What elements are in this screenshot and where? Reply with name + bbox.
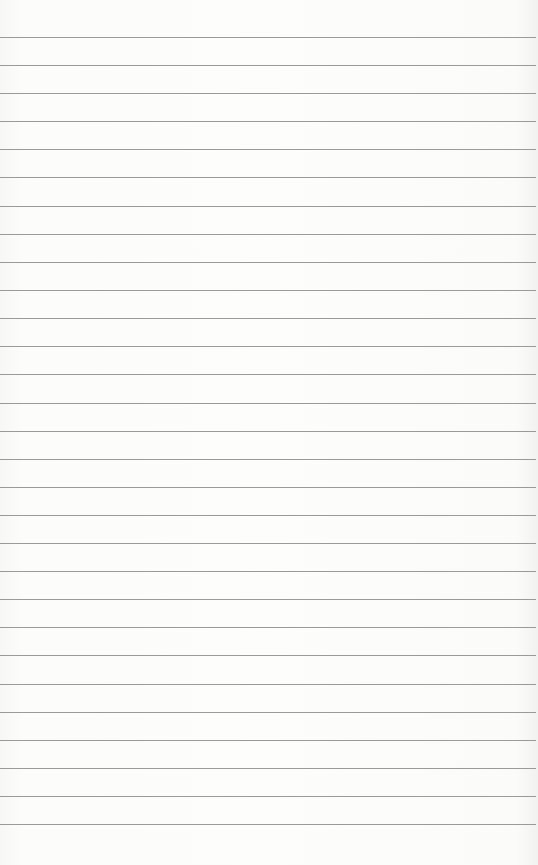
ruled-line (0, 346, 536, 347)
ruled-line (0, 712, 536, 713)
ruled-line (0, 824, 536, 825)
ruled-line (0, 740, 536, 741)
ruled-line (0, 149, 536, 150)
ruled-line (0, 318, 536, 319)
ruled-line (0, 627, 536, 628)
ruled-line (0, 571, 536, 572)
ruled-line (0, 459, 536, 460)
ruled-line (0, 290, 536, 291)
ruled-line (0, 206, 536, 207)
ruled-line (0, 655, 536, 656)
ruled-line (0, 796, 536, 797)
ruled-line (0, 93, 536, 94)
ruled-line (0, 65, 536, 66)
ruled-line (0, 234, 536, 235)
ruled-line (0, 403, 536, 404)
ruled-line (0, 768, 536, 769)
ruled-line (0, 487, 536, 488)
ruled-line (0, 177, 536, 178)
ruled-line (0, 599, 536, 600)
ruled-line (0, 121, 536, 122)
ruled-line (0, 543, 536, 544)
ruled-line (0, 37, 536, 38)
ruled-line (0, 515, 536, 516)
ruled-line (0, 431, 536, 432)
ruled-line (0, 374, 536, 375)
ruled-line (0, 684, 536, 685)
lined-paper (0, 0, 538, 865)
ruled-line (0, 262, 536, 263)
